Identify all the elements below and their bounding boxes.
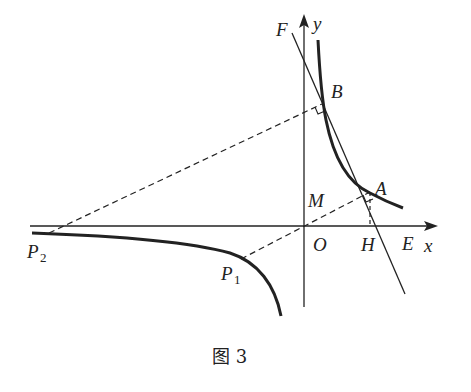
svg-text:2: 2 xyxy=(40,250,47,265)
label-e: E xyxy=(401,233,414,254)
label-p2: P 2 xyxy=(26,241,47,265)
svg-text:1: 1 xyxy=(234,272,241,287)
label-o: O xyxy=(313,234,327,255)
label-m: M xyxy=(307,190,325,211)
label-p1: P 1 xyxy=(220,263,241,287)
svg-text:P: P xyxy=(220,263,233,284)
line-ef xyxy=(292,33,405,294)
dashed-line-p2-b xyxy=(49,104,322,233)
figure-canvas: F y B A M O H E x P 2 P 1 图 3 xyxy=(0,0,471,392)
label-x: x xyxy=(423,235,433,256)
label-f: F xyxy=(275,19,288,40)
hyperbola-lower-branch xyxy=(32,233,281,316)
figure-caption: 图 3 xyxy=(212,346,247,367)
svg-text:P: P xyxy=(26,241,39,262)
label-b: B xyxy=(331,81,343,102)
y-axis xyxy=(299,14,309,307)
label-a: A xyxy=(373,178,387,199)
label-h: H xyxy=(360,234,376,255)
label-y: y xyxy=(311,13,322,34)
